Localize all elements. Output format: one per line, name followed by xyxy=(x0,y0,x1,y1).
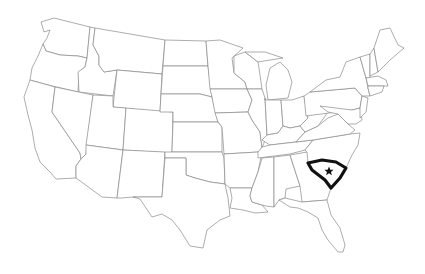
state-massachusetts xyxy=(366,76,388,86)
state-wyoming xyxy=(113,70,162,112)
state-new-jersey xyxy=(360,96,368,118)
state-montana xyxy=(93,28,165,74)
us-map xyxy=(0,0,425,274)
state-florida xyxy=(279,198,345,252)
state-north-dakota xyxy=(163,40,208,66)
state-maine xyxy=(374,28,404,72)
state-kansas xyxy=(172,122,222,152)
state-colorado xyxy=(123,108,173,153)
us-map-svg xyxy=(0,0,425,274)
state-south-dakota xyxy=(161,66,212,97)
state-connecticut-ri xyxy=(368,86,384,96)
state-iowa xyxy=(210,89,252,113)
state-new-mexico xyxy=(117,150,165,198)
